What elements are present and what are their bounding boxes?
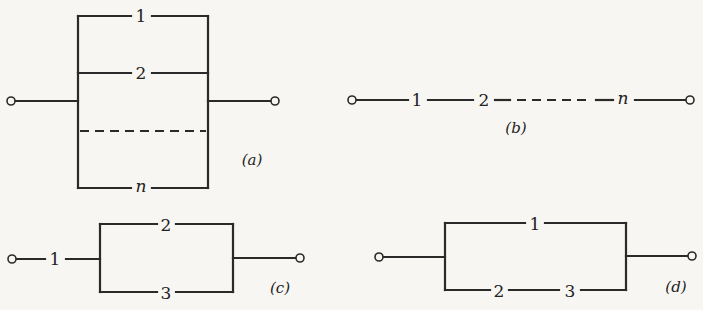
caption-d: (d)	[665, 278, 686, 296]
output-terminal-icon	[686, 96, 694, 104]
element-2-label: 2	[494, 281, 505, 301]
input-terminal-icon	[8, 255, 16, 263]
element-2-label: 2	[479, 90, 490, 110]
panel-a-parallel: 1 2 n (a)	[7, 6, 279, 196]
branch-3-label: 3	[161, 283, 172, 303]
input-terminal-icon	[375, 253, 383, 261]
caption-a: (a)	[242, 151, 263, 169]
branch-2-label: 2	[136, 63, 147, 83]
panel-d-parallel-series: 1 2 3 (d)	[375, 214, 696, 301]
diagram-canvas: 1 2 n (a) 1 2 n (b) 1 2 3	[0, 0, 703, 310]
caption-b: (b)	[505, 119, 526, 137]
output-terminal-icon	[296, 254, 304, 262]
input-terminal-icon	[348, 96, 356, 104]
panel-c-series-parallel: 1 2 3 (c)	[8, 215, 304, 303]
branch-1-label: 1	[136, 6, 147, 26]
caption-c: (c)	[270, 279, 290, 297]
branch-n-label: n	[136, 176, 147, 196]
output-terminal-icon	[688, 252, 696, 260]
element-1-label: 1	[50, 249, 61, 269]
output-terminal-icon	[271, 97, 279, 105]
panel-b-series: 1 2 n (b)	[348, 88, 694, 137]
branch-2-label: 2	[161, 215, 172, 235]
element-n-label: n	[618, 88, 629, 108]
element-1-label: 1	[412, 90, 423, 110]
input-terminal-icon	[7, 97, 15, 105]
element-3-label: 3	[565, 281, 576, 301]
branch-1-label: 1	[530, 214, 541, 234]
